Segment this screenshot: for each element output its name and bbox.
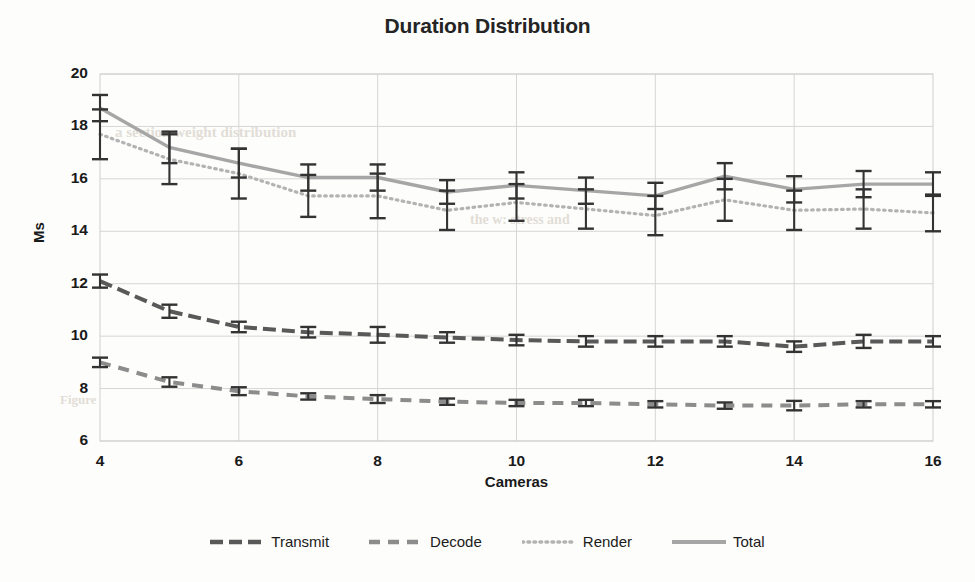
legend-label-render: Render bbox=[583, 533, 632, 550]
y-axis-tick-16: 16 bbox=[54, 169, 88, 187]
legend-label-total: Total bbox=[733, 533, 765, 550]
x-axis-tick-12: 12 bbox=[635, 452, 675, 470]
chart-figure: a section weight distribution the w: str… bbox=[0, 0, 975, 582]
y-axis-tick-10: 10 bbox=[54, 326, 88, 344]
x-axis-tick-10: 10 bbox=[497, 452, 537, 470]
x-axis-title: Cameras bbox=[100, 473, 933, 490]
legend-label-decode: Decode bbox=[430, 533, 482, 550]
y-axis-tick-12: 12 bbox=[54, 274, 88, 292]
legend-label-transmit: Transmit bbox=[271, 533, 329, 550]
legend-item-render[interactable]: Render bbox=[522, 533, 632, 550]
chart-legend: TransmitDecodeRenderTotal bbox=[0, 533, 975, 550]
x-axis-tick-6: 6 bbox=[219, 452, 259, 470]
y-axis-tick-18: 18 bbox=[54, 116, 88, 134]
y-axis-title: Ms bbox=[30, 222, 47, 243]
x-axis-tick-8: 8 bbox=[358, 452, 398, 470]
legend-item-total[interactable]: Total bbox=[672, 533, 765, 550]
plot-area bbox=[0, 0, 975, 582]
legend-swatch-decode-icon bbox=[369, 536, 423, 548]
y-axis-tick-8: 8 bbox=[54, 379, 88, 397]
y-axis-tick-20: 20 bbox=[54, 64, 88, 82]
legend-item-decode[interactable]: Decode bbox=[369, 533, 482, 550]
legend-item-transmit[interactable]: Transmit bbox=[210, 533, 329, 550]
x-axis-tick-4: 4 bbox=[80, 452, 120, 470]
x-axis-tick-14: 14 bbox=[774, 452, 814, 470]
legend-swatch-transmit-icon bbox=[210, 536, 264, 548]
legend-swatch-render-icon bbox=[522, 536, 576, 548]
legend-swatch-total-icon bbox=[672, 536, 726, 548]
y-axis-tick-6: 6 bbox=[54, 431, 88, 449]
y-axis-tick-14: 14 bbox=[54, 221, 88, 239]
x-axis-tick-16: 16 bbox=[913, 452, 953, 470]
gridlines bbox=[100, 74, 933, 441]
